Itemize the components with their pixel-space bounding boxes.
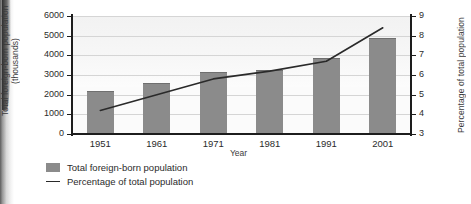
y-tick-label-right-5: 5 [419,89,424,99]
y-axis-right-line [410,14,412,136]
y-tick-label-left-3000: 3000 [44,69,64,79]
legend-item-bar: Total foreign-born population [46,160,193,174]
y-tick-right [412,95,416,96]
x-tick-label-1971: 1971 [190,138,236,149]
x-tick-label-1961: 1961 [134,138,180,149]
plot-area: 0100020003000400050006000 3456789 195119… [72,16,411,134]
y-tick-label-right-9: 9 [419,10,424,20]
chart-figure: Total foreign-born population (thousands… [0,0,471,204]
y-tick-label-left-1000: 1000 [44,108,64,118]
y-tick-right [412,36,416,37]
y-axis-left-line [71,14,73,136]
y-tick-label-left-0: 0 [59,128,64,138]
y-tick-label-right-3: 3 [419,128,424,138]
chart-legend: Total foreign-born population Percentage… [46,160,193,188]
y-axis-left-title-text: Total foreign-born population (thousands… [0,0,20,122]
legend-item-line-label: Percentage of total population [67,176,193,187]
y-tick-label-right-6: 6 [419,69,424,79]
y-tick-label-left-4000: 4000 [44,49,64,59]
y-tick-label-right-8: 8 [419,30,424,40]
legend-line-icon [46,181,60,182]
legend-square-icon [46,163,60,172]
y-axis-right-title: Percentage of total population [456,8,469,142]
y-tick-label-left-6000: 6000 [44,10,64,20]
x-axis-line [71,133,412,135]
x-tick-label-1991: 1991 [303,138,349,149]
legend-item-line: Percentage of total population [46,174,193,188]
x-tick-label-1981: 1981 [247,138,293,149]
x-axis-title-text: Year [230,148,247,158]
legend-item-bar-label: Total foreign-born population [67,162,187,173]
x-tick-label-2001: 2001 [360,138,406,149]
y-tick-label-right-7: 7 [419,49,424,59]
x-tick-label-1951: 1951 [77,138,123,149]
y-tick-right [412,16,416,17]
y-tick-label-left-5000: 5000 [44,30,64,40]
y-axis-right-title-text: Percentage of total population [456,8,466,142]
y-axis-left-title: Total foreign-born population (thousands… [0,0,22,122]
y-tick-label-right-4: 4 [419,108,424,118]
y-tick-right [412,134,416,135]
y-tick-right [412,75,416,76]
y-tick-label-left-2000: 2000 [44,89,64,99]
y-tick-right [412,114,416,115]
line-series [72,16,411,134]
x-axis-title: Year [0,148,471,158]
y-tick-right [412,55,416,56]
